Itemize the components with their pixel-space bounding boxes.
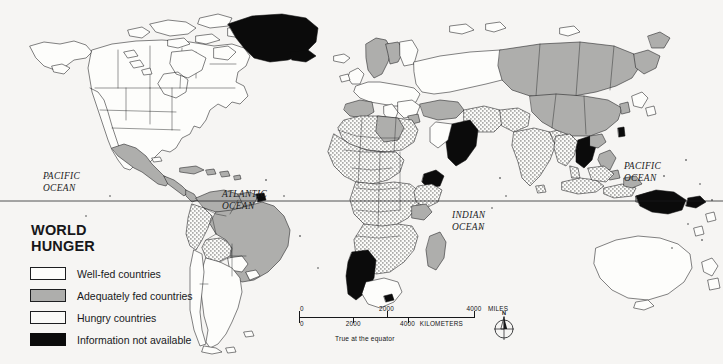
legend-swatch-well-fed <box>30 267 66 280</box>
ocean-label-atlantic: ATLANTIC OCEAN <box>222 188 267 212</box>
scalebar-km-0: 0 <box>300 320 304 327</box>
scalebar-miles-4000: 4000 <box>466 305 481 312</box>
legend-label-hungry: Hungry countries <box>77 312 156 324</box>
compass-north-label: N <box>502 310 506 316</box>
map-title: WORLD HUNGER <box>31 222 222 254</box>
legend-item-adequately-fed: Adequately fed countries <box>26 285 222 306</box>
legend-item-hungry: Hungry countries <box>26 307 222 328</box>
compass-rose: N <box>489 310 519 350</box>
map-legend: WORLD HUNGER Well-fed countries Adequate… <box>26 222 222 351</box>
scalebar-km-4000: 4000 <box>400 320 415 327</box>
world-hunger-map-page: PACIFIC OCEAN ATLANTIC OCEAN INDIAN OCEA… <box>0 0 723 364</box>
legend-swatch-adequately-fed <box>30 289 66 302</box>
ocean-label-indian: INDIAN OCEAN <box>452 209 485 233</box>
legend-swatch-hungry <box>30 311 66 324</box>
scalebar-km-2000: 2000 <box>346 320 361 327</box>
ocean-label-pacific-east: PACIFIC OCEAN <box>624 160 661 184</box>
ocean-label-pacific-west: PACIFIC OCEAN <box>43 170 80 194</box>
scalebar-unit-kilometers: KILOMETERS <box>420 320 463 327</box>
legend-item-no-information: Information not available <box>26 329 222 350</box>
legend-item-well-fed: Well-fed countries <box>26 263 222 284</box>
scalebar-miles-2000: 2000 <box>379 305 394 312</box>
map-scalebar: 0 2000 4000 MILES 0 2000 4000 KILOMETERS… <box>299 309 474 318</box>
scalebar-track: 0 2000 4000 MILES 0 2000 4000 KILOMETERS <box>299 309 474 318</box>
scalebar-tick-miles-2000 <box>387 311 388 318</box>
scalebar-note: True at the equator <box>335 335 395 342</box>
legend-swatch-no-information <box>30 333 66 346</box>
scalebar-tick-miles-4000 <box>474 311 475 318</box>
legend-label-no-information: Information not available <box>77 334 191 346</box>
legend-label-adequately-fed: Adequately fed countries <box>77 290 193 302</box>
scalebar-miles-0: 0 <box>300 305 304 312</box>
legend-label-well-fed: Well-fed countries <box>77 268 161 280</box>
